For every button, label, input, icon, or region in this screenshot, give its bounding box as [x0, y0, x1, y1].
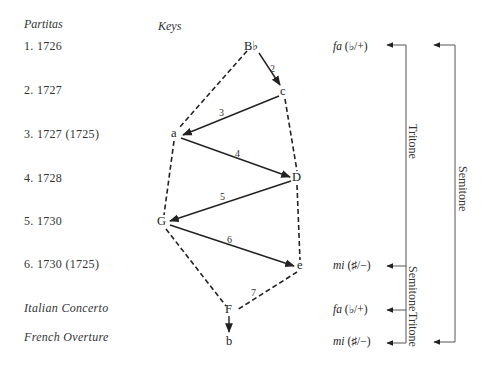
- syllable: mi: [333, 335, 345, 347]
- key-node-b: b: [226, 335, 232, 347]
- solmization-mi-1: mi (♯/−): [333, 259, 370, 271]
- dashed-edge-c-d: [285, 99, 297, 171]
- solmization-mi-2: mi (♯/−): [333, 335, 370, 347]
- edge-label-3: 3: [219, 107, 224, 119]
- accidental-sign: (♯/−): [347, 259, 370, 271]
- dashed-edge-bb-a: [179, 51, 247, 128]
- arrow-edge-6: [170, 225, 294, 266]
- inner-bracket-label-tritone-lower: Tritone: [405, 312, 420, 347]
- key-node-c: c: [280, 85, 286, 97]
- arrow-edge-3: [183, 96, 279, 135]
- key-node-f: F: [225, 303, 232, 315]
- edge-label-4: 4: [235, 148, 240, 160]
- dashed-edge-a-g: [164, 141, 174, 215]
- accidental-sign: (♭/+): [345, 40, 368, 52]
- edge-label-7: 7: [251, 287, 256, 299]
- edge-label-2: 2: [270, 63, 275, 75]
- key-node-e: e: [297, 259, 303, 271]
- solmization-fa-2: fa (♭/+): [333, 303, 368, 315]
- syllable: fa: [333, 303, 342, 315]
- solmization-fa-1: fa (♭/+): [333, 40, 368, 52]
- inner-bracket-label-semitone: Semitone: [405, 266, 420, 311]
- key-node-d: D: [292, 171, 301, 183]
- dashed-edge-e-f: [237, 272, 297, 310]
- accidental-sign: (♭/+): [345, 303, 368, 315]
- inner-bracket-label-tritone-upper: Tritone: [405, 124, 420, 159]
- key-node-a: a: [171, 127, 177, 139]
- edge-label-5: 5: [220, 191, 225, 203]
- arrow-edge-5: [170, 181, 291, 221]
- outer-bracket-label-semitone: Semitone: [455, 166, 470, 211]
- key-node-bflat: B♭: [244, 40, 258, 52]
- accidental-sign: (♯/−): [347, 335, 370, 347]
- edge-label-6: 6: [227, 234, 232, 246]
- dashed-edge-d-e: [297, 185, 300, 260]
- syllable: mi: [333, 259, 345, 271]
- syllable: fa: [333, 40, 342, 52]
- key-relationship-diagram: Partitas Keys 1. 1726 2. 1727 3. 1727 (1…: [0, 0, 489, 377]
- key-node-g: G: [157, 215, 166, 227]
